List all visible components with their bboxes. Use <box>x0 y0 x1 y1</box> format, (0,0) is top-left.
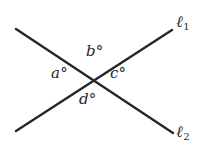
line-label-l2-subscript: 2 <box>183 131 190 142</box>
angle-label-c: c° <box>110 66 126 81</box>
line-label-l1: ℓ1 <box>176 14 190 32</box>
line-label-l1-subscript: 1 <box>183 21 190 32</box>
line-label-l1-glyph: ℓ <box>176 12 183 31</box>
angle-label-a: a° <box>51 66 68 81</box>
angle-label-b: b° <box>86 44 104 59</box>
geometry-figure: a° b° c° d° ℓ1 ℓ2 <box>0 0 209 159</box>
line-label-l2: ℓ2 <box>176 124 190 142</box>
angle-label-d: d° <box>79 92 97 107</box>
line-label-l2-glyph: ℓ <box>176 122 183 141</box>
